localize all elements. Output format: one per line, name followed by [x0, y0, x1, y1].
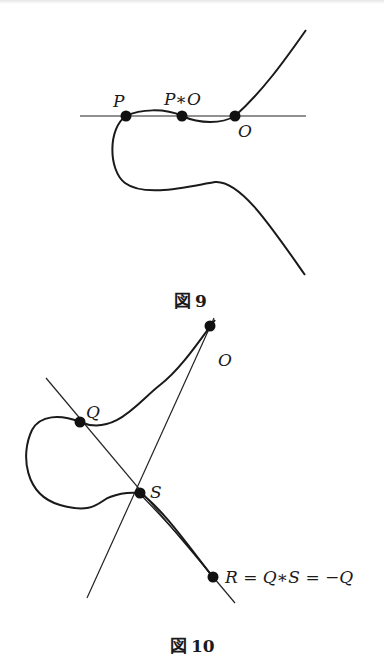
- figure-10-diagram: O Q S R = Q∗S = −Q: [0, 0, 384, 665]
- fig10-label-Q: Q: [86, 402, 100, 422]
- fig10-point-R: [208, 572, 219, 583]
- fig10-point-S: [135, 488, 146, 499]
- fig10-equation-label: R = Q∗S = −Q: [224, 567, 353, 587]
- fig10-curve: [26, 320, 215, 577]
- fig10-caption-number: 10: [191, 636, 215, 656]
- fig10-caption-prefix: 図: [170, 636, 187, 656]
- fig10-label-O: O: [218, 350, 232, 370]
- fig10-point-O: [205, 321, 216, 332]
- figure-10-caption: 図10: [170, 632, 215, 657]
- fig10-tangent-strand: [142, 496, 211, 575]
- fig10-label-S: S: [150, 482, 162, 502]
- fig10-point-Q: [75, 417, 86, 428]
